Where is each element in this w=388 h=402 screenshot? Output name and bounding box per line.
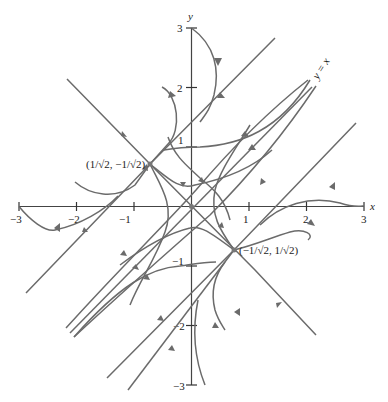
equilibrium-origin (189, 204, 194, 209)
tick-label-x-1: 1 (243, 213, 249, 225)
tick-label-x-3: 3 (361, 213, 367, 225)
label-equilibrium-lower-right: (−1/√2, 1/√2) (239, 244, 299, 257)
equilibrium-lower-right (232, 248, 237, 253)
line-label-y-equals-x: y = x (309, 55, 332, 82)
label-equilibrium-upper-left: (1/√2, −1/√2) (86, 158, 146, 171)
tick-label-y-3: 3 (177, 22, 183, 34)
tick-label-y-2: 2 (177, 82, 183, 94)
y-axis-label: y (187, 10, 193, 22)
tick-label-x-m1: −1 (119, 213, 131, 225)
tick-label-x-m3: −3 (10, 213, 22, 225)
equilibrium-upper-left (148, 162, 153, 167)
phase-portrait: −3 −2 −1 1 2 3 3 2 1 −1 −2 −3 y x y = x (0, 0, 388, 402)
x-axis-label: x (369, 200, 375, 212)
tick-label-y-m3: −3 (173, 380, 185, 392)
